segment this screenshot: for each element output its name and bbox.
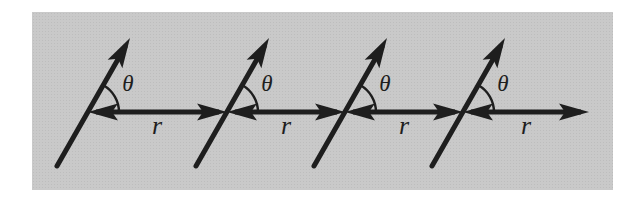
separation-r-label: r (521, 111, 532, 140)
tilted-vector-unit: θ (196, 34, 276, 166)
tilted-vector-unit: θ (57, 34, 137, 166)
vector-arrowhead-icon (365, 34, 395, 68)
separation-arrow: r (88, 104, 227, 141)
separation-r-label: r (281, 111, 292, 140)
separation-r-label: r (152, 111, 163, 140)
figure: r r r r θ (0, 0, 638, 204)
separation-arrow: r (227, 104, 345, 141)
angle-theta-label: θ (261, 71, 272, 96)
angle-theta-label: θ (379, 71, 390, 96)
separation-arrow: r (463, 104, 589, 141)
separation-r-label: r (399, 111, 410, 140)
vector-arrowhead-icon (108, 34, 138, 68)
vector-arrowhead-icon (247, 34, 277, 68)
tilted-vector-unit: θ (432, 34, 512, 166)
tilted-vector-unit: θ (314, 34, 394, 166)
angle-theta-label: θ (122, 71, 133, 96)
angle-theta-label: θ (497, 71, 508, 96)
separation-arrow: r (345, 104, 463, 141)
vector-arrowhead-icon (483, 34, 513, 68)
diagram-svg: r r r r θ (0, 0, 638, 204)
